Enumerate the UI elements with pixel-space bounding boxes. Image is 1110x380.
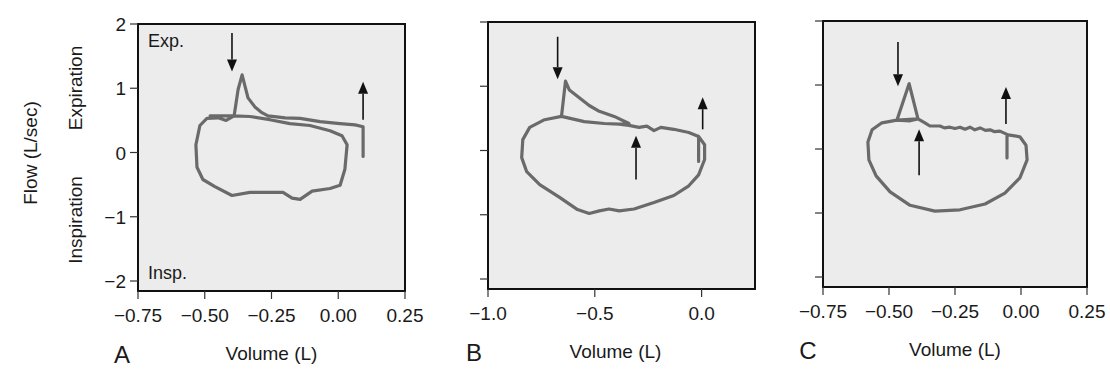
- y-axis-label: Flow (L/sec): [20, 101, 41, 204]
- annotation-insp: Insp.: [148, 263, 187, 283]
- panel-a: 210−1−2−0.75−0.50−0.250.000.25Volume (L)…: [104, 14, 423, 368]
- y-axis-label-expiration: Expiration: [65, 46, 86, 131]
- panel-letter: B: [466, 339, 482, 366]
- y-tick-label: −1: [104, 207, 126, 228]
- x-axis-label: Volume (L): [226, 343, 318, 364]
- x-tick-label: −0.5: [576, 303, 614, 324]
- x-axis-label: Volume (L): [909, 339, 1001, 360]
- x-axis-label: Volume (L): [570, 341, 662, 362]
- x-tick-label: −0.25: [931, 301, 979, 322]
- x-tick-label: −0.25: [247, 305, 295, 326]
- plot-area: [823, 21, 1087, 287]
- panel-b: −1.0−0.50.0Volume (L)B: [466, 22, 755, 366]
- flow-volume-figure: Flow (L/sec) Expiration Inspiration 210−…: [0, 0, 1110, 380]
- x-tick-label: 0.00: [320, 305, 357, 326]
- x-tick-label: −0.50: [865, 301, 913, 322]
- x-tick-label: −0.75: [799, 301, 847, 322]
- y-tick-label: 1: [115, 78, 126, 99]
- y-tick-label: 2: [115, 14, 126, 35]
- annotation-exp: Exp.: [148, 31, 184, 51]
- y-tick-label: −2: [104, 271, 126, 292]
- y-tick-label: 0: [115, 143, 126, 164]
- x-tick-label: 0.00: [1003, 301, 1040, 322]
- x-tick-label: 0.0: [688, 303, 714, 324]
- panel-c: −0.75−0.50−0.250.000.25Volume (L)C: [799, 21, 1106, 364]
- x-tick-label: −1.0: [469, 303, 507, 324]
- panel-letter: A: [114, 341, 130, 368]
- x-tick-label: 0.25: [1069, 301, 1106, 322]
- panel-letter: C: [799, 337, 816, 364]
- y-axis-label-inspiration: Inspiration: [65, 176, 86, 264]
- plot-area: [138, 24, 405, 291]
- x-tick-label: −0.50: [181, 305, 229, 326]
- x-tick-label: 0.25: [387, 305, 424, 326]
- plot-area: [488, 22, 755, 289]
- x-tick-label: −0.75: [114, 305, 162, 326]
